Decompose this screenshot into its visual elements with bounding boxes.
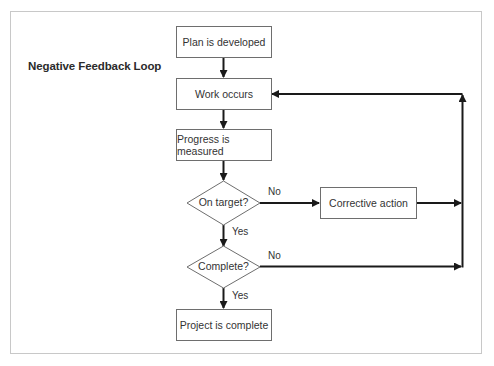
progress-measured-node: Progress is measured: [176, 129, 272, 161]
work-occurs-node: Work occurs: [176, 78, 272, 110]
plan-developed-node: Plan is developed: [176, 26, 272, 58]
corrective-action-label: Corrective action: [329, 197, 408, 209]
project-complete-node: Project is complete: [176, 309, 272, 341]
on-target-yes-label: Yes: [232, 226, 248, 237]
complete-yes-label: Yes: [232, 290, 248, 301]
corrective-action-node: Corrective action: [320, 187, 417, 219]
progress-measured-label: Progress is measured: [177, 133, 271, 157]
work-occurs-label: Work occurs: [195, 88, 253, 100]
on-target-label: On target?: [187, 196, 260, 208]
complete-question-label: Complete?: [187, 260, 260, 272]
complete-no-label: No: [268, 250, 281, 261]
project-complete-label: Project is complete: [180, 319, 269, 331]
on-target-no-label: No: [268, 186, 281, 197]
plan-developed-label: Plan is developed: [183, 36, 266, 48]
